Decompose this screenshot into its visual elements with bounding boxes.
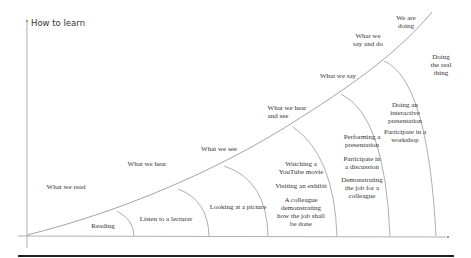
segment-exhibit: Visiting an exhibit (275, 182, 327, 190)
arc-3 (224, 166, 268, 236)
segment-real-thing: Doing the real thing (431, 53, 452, 77)
chart-title: How to learn (31, 18, 85, 28)
curve-label-say-do: What we say and do (353, 32, 383, 48)
learning-pyramid-diagram: How to learn What we read What we hear W… (0, 0, 471, 258)
x-axis (18, 236, 446, 237)
curve-label-read: What we read (47, 183, 86, 191)
arc-2 (178, 189, 209, 236)
arc-6 (384, 61, 436, 236)
segment-discussion: Participate in a discussion (343, 155, 380, 171)
segment-colleague-demo: A colleague demonstrating how the job sh… (277, 196, 325, 228)
segment-picture: Looking at a picture (210, 203, 267, 211)
bottom-rule (18, 255, 454, 257)
curve-label-hear-see: What we hear and see (268, 104, 307, 120)
x-axis-arrow-icon (447, 236, 449, 238)
segment-workshop: Participate in a workshop (384, 128, 426, 144)
curve-label-hear: What we hear (128, 160, 167, 168)
segment-presentation: Performing a presentation (344, 133, 381, 149)
arc-1 (117, 211, 134, 236)
curve-label-doing: We are doing (396, 14, 415, 30)
curve-label-say: What we say (320, 72, 356, 80)
segment-interactive: Doing an interactive presentation (388, 101, 422, 125)
segment-watching: Watching a YouTube movie (279, 160, 324, 176)
y-axis-arrow-icon (26, 20, 28, 22)
segment-reading: Reading (91, 222, 114, 230)
segment-lecture: Listen to a lecturer (140, 215, 193, 223)
curve-label-see: What we see (201, 145, 237, 153)
segment-demonstrating: Demonstrating the job for a colleague (341, 176, 383, 200)
